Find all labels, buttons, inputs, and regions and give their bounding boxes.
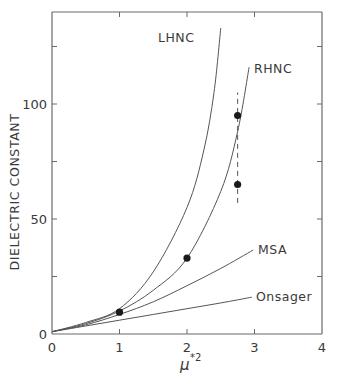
x-axis-title: μ *2: [179, 352, 201, 374]
label-onsager: Onsager: [256, 289, 313, 304]
data-point: [234, 112, 241, 119]
x-tick-0: 0: [48, 340, 56, 355]
data-point: [116, 309, 123, 316]
x-axis-title-base: μ: [179, 356, 190, 374]
y-axis-title: DIELECTRIC CONSTANT: [7, 114, 22, 271]
x-tick-labels: 0 1 2 3 4: [48, 340, 326, 355]
dielectric-constant-chart: 0 50 100 0 1 2 3 4 DIELECTRIC CONSTANT μ…: [0, 0, 337, 379]
x-tick-4: 4: [318, 340, 326, 355]
y-tick-50: 50: [30, 212, 47, 227]
label-msa: MSA: [258, 242, 287, 257]
curve-lhnc: [52, 28, 221, 332]
label-lhnc: LHNC: [158, 30, 194, 45]
data-point: [234, 181, 241, 188]
y-tick-labels: 0 50 100: [22, 97, 47, 342]
x-axis-title-superscript: *2: [190, 352, 201, 363]
x-tick-3: 3: [250, 340, 258, 355]
curves: [52, 28, 253, 332]
curve-rhnc: [52, 67, 249, 332]
data-point: [183, 255, 190, 262]
y-tick-100: 100: [22, 97, 47, 112]
label-rhnc: RHNC: [254, 61, 292, 76]
x-tick-1: 1: [115, 340, 123, 355]
y-tick-0: 0: [39, 327, 47, 342]
data-points: [116, 112, 241, 316]
